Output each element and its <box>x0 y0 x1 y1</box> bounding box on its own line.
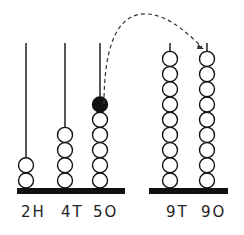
bead <box>93 158 108 173</box>
bead <box>200 158 215 173</box>
bead <box>163 173 178 188</box>
highlighted-bead <box>93 97 108 112</box>
bead <box>19 158 34 173</box>
bead <box>163 51 178 66</box>
bead <box>163 112 178 127</box>
bead <box>93 112 108 127</box>
bead <box>200 97 215 112</box>
rod-label-ones-left: 5O <box>93 203 118 221</box>
bead <box>200 51 215 66</box>
abacus-diagram <box>0 0 244 235</box>
bead <box>200 173 215 188</box>
bead <box>163 97 178 112</box>
abacus-base-left <box>17 188 125 194</box>
bead <box>200 67 215 82</box>
rod-label-ones-right: 9O <box>201 203 226 221</box>
bead <box>93 143 108 158</box>
bead <box>58 173 73 188</box>
bead <box>200 143 215 158</box>
bead <box>200 112 215 127</box>
dashed-arrow <box>104 14 202 104</box>
rod-label-tens-left: 4T <box>61 203 84 221</box>
bead <box>19 173 34 188</box>
bead <box>163 127 178 142</box>
bead <box>200 82 215 97</box>
rod-label-hundreds: 2H <box>21 203 46 221</box>
bead <box>163 158 178 173</box>
bead <box>93 127 108 142</box>
bead <box>200 127 215 142</box>
bead <box>58 127 73 142</box>
bead <box>58 143 73 158</box>
bead <box>163 67 178 82</box>
abacus-base-right <box>149 188 228 194</box>
bead <box>93 173 108 188</box>
rod-label-tens-right: 9T <box>166 203 189 221</box>
bead <box>163 143 178 158</box>
bead <box>163 82 178 97</box>
arrowhead-icon <box>197 44 204 49</box>
bead <box>58 158 73 173</box>
